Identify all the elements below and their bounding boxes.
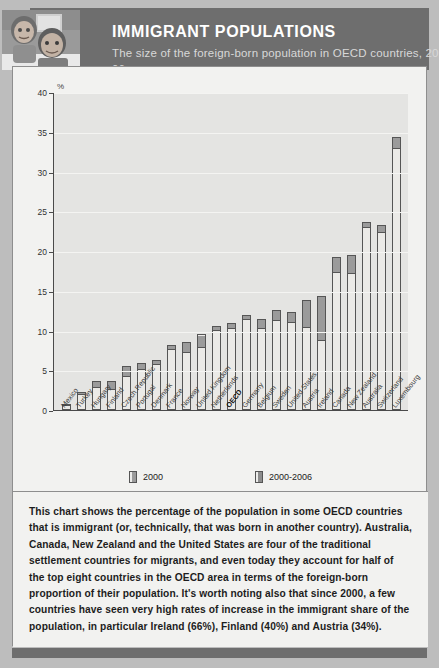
y-axis-tick-label: 40	[13, 88, 47, 98]
y-axis-tick-mark	[49, 292, 53, 293]
y-axis-tick-label: 5	[13, 366, 47, 376]
description-text: This chart shows the percentage of the p…	[29, 504, 412, 635]
gridline	[54, 332, 408, 333]
bar-segment-increase	[273, 311, 280, 321]
children-photo-icon	[2, 10, 80, 70]
legend-swatch-2000-2006	[255, 471, 263, 483]
y-axis-tick-mark	[49, 173, 53, 174]
gridline	[54, 173, 408, 174]
y-axis-tick-mark	[49, 371, 53, 372]
y-axis-tick-label: 25	[13, 207, 47, 217]
bar-segment-increase	[183, 343, 190, 352]
gridline	[54, 93, 408, 94]
legend-label-2000: 2000	[143, 472, 163, 482]
legend-label-2000-2006: 2000-2006	[269, 472, 312, 482]
y-axis-tick-mark	[49, 93, 53, 94]
y-axis-tick-label: 15	[13, 287, 47, 297]
page-title: IMMIGRANT POPULATIONS	[112, 22, 439, 41]
legend-item-2000-2006: 2000-2006	[255, 471, 312, 483]
y-axis-tick-label: 0	[13, 406, 47, 416]
y-axis-tick-label: 30	[13, 168, 47, 178]
bar-segment-2000	[333, 273, 340, 410]
bar-segment-2000	[393, 149, 400, 409]
bar-segment-increase	[393, 138, 400, 148]
bar-segment-increase	[318, 297, 325, 342]
gridline	[54, 133, 408, 134]
footer-bar	[12, 648, 427, 658]
x-axis-labels: MexicoTurkeyHungaryFinlandCzech Republic…	[53, 413, 408, 475]
y-axis-tick-mark	[49, 133, 53, 134]
y-axis-unit-label: %	[57, 82, 64, 91]
chart-legend: 2000 2000-2006	[13, 471, 428, 483]
y-axis-tick-label: 35	[13, 128, 47, 138]
gridline	[54, 292, 408, 293]
infographic-page: IMMIGRANT POPULATIONS The size of the fo…	[0, 0, 439, 668]
plot-area	[53, 93, 408, 411]
bar-segment-increase	[198, 336, 205, 348]
y-axis-tick-label: 10	[13, 327, 47, 337]
bar-segment-increase	[348, 256, 355, 274]
content-card: % 0510152025303540 MexicoTurkeyHungaryFi…	[12, 66, 427, 646]
y-axis-tick-mark	[49, 212, 53, 213]
y-axis-tick-label: 20	[13, 247, 47, 257]
bar-canada	[332, 257, 341, 410]
y-axis-tick-mark	[49, 332, 53, 333]
bar-segment-increase	[303, 301, 310, 328]
bar-segment-increase	[288, 313, 295, 323]
gridline	[54, 252, 408, 253]
legend-swatch-2000	[129, 471, 137, 483]
bar-luxembourg	[392, 137, 401, 410]
y-axis-tick-mark	[49, 411, 53, 412]
bar-segment-increase	[378, 226, 385, 233]
bar-segment-increase	[258, 320, 265, 329]
chart-area: % 0510152025303540 MexicoTurkeyHungaryFi…	[13, 73, 428, 473]
bar-segment-increase	[333, 258, 340, 273]
header-band: IMMIGRANT POPULATIONS The size of the fo…	[30, 8, 429, 70]
description-box: This chart shows the percentage of the p…	[13, 491, 428, 647]
gridline	[54, 212, 408, 213]
gridline	[54, 371, 408, 372]
header-photo	[2, 10, 80, 70]
y-axis-tick-mark	[49, 252, 53, 253]
legend-item-2000: 2000	[129, 471, 163, 483]
